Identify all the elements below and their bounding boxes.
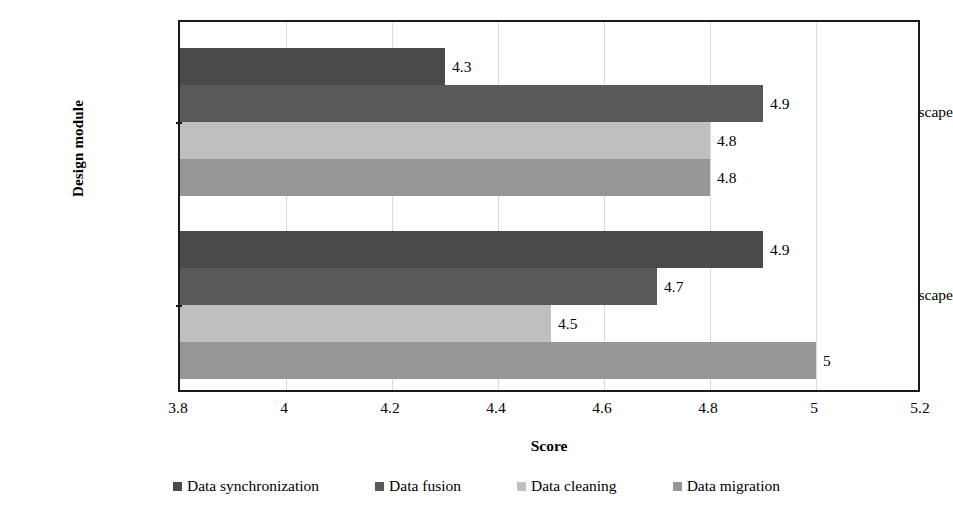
- bar-chart: Design module Soft landscape Hard landsc…: [0, 0, 953, 527]
- bar-value-label: 4.9: [770, 242, 789, 258]
- bar-value-label: 4.9: [770, 96, 789, 112]
- x-axis-tick-label: 3.8: [148, 399, 208, 417]
- x-axis-tick-label: 4.6: [572, 399, 632, 417]
- bar: [180, 231, 763, 268]
- legend-item-label: Data cleaning: [531, 477, 617, 495]
- x-axis-tick-label: 4: [254, 399, 314, 417]
- gridline: [710, 22, 711, 390]
- bar-value-label: 4.7: [664, 279, 683, 295]
- y-axis-tick: [176, 305, 182, 307]
- plot-area: 4.34.94.84.84.94.74.55: [178, 20, 920, 392]
- legend-item[interactable]: Data fusion: [375, 477, 461, 495]
- gridline: [816, 22, 817, 390]
- chart-legend: Data synchronizationData fusionData clea…: [0, 477, 953, 495]
- bar: [180, 48, 445, 85]
- x-axis-tick-label: 5: [784, 399, 844, 417]
- y-axis-tick: [176, 122, 182, 124]
- gridline: [604, 22, 605, 390]
- y-axis-title: Design module: [70, 79, 87, 219]
- bar: [180, 122, 710, 159]
- x-axis-tick-label: 4.4: [466, 399, 526, 417]
- legend-item[interactable]: Data cleaning: [517, 477, 617, 495]
- bar-value-label: 5: [823, 353, 831, 369]
- x-axis-title: Score: [178, 437, 920, 455]
- bar: [180, 85, 763, 122]
- legend-item[interactable]: Data synchronization: [173, 477, 319, 495]
- legend-swatch-icon: [375, 482, 384, 491]
- legend-swatch-icon: [173, 482, 182, 491]
- bar-value-label: 4.5: [558, 316, 577, 332]
- legend-item-label: Data synchronization: [187, 477, 319, 495]
- legend-item[interactable]: Data migration: [673, 477, 780, 495]
- bar: [180, 305, 551, 342]
- x-axis-tick-label: 5.2: [890, 399, 950, 417]
- bar-value-label: 4.8: [717, 170, 736, 186]
- legend-item-label: Data migration: [687, 477, 780, 495]
- bar-value-label: 4.3: [452, 59, 471, 75]
- legend-swatch-icon: [517, 482, 526, 491]
- bar: [180, 268, 657, 305]
- x-axis-tick-label: 4.2: [360, 399, 420, 417]
- bar: [180, 342, 816, 379]
- legend-swatch-icon: [673, 482, 682, 491]
- bar-value-label: 4.8: [717, 133, 736, 149]
- bar: [180, 159, 710, 196]
- legend-item-label: Data fusion: [389, 477, 461, 495]
- x-axis-tick-label: 4.8: [678, 399, 738, 417]
